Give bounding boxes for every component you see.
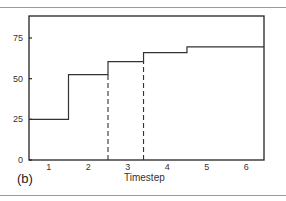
x-axis: 123456: [46, 162, 248, 172]
x-tick-label: 1: [46, 162, 51, 172]
x-tick-label: 5: [204, 162, 209, 172]
y-tick-label: 25: [13, 114, 23, 124]
y-tick-label: 75: [13, 33, 23, 43]
step-series-line: [29, 47, 264, 119]
plot-frame: [29, 16, 264, 160]
step-chart: 0255075 123456 Timestep (b): [0, 0, 286, 201]
dashed-markers: [108, 62, 144, 160]
y-tick-label: 50: [13, 74, 23, 84]
y-tick-label: 0: [18, 155, 23, 165]
x-tick-label: 6: [244, 162, 249, 172]
x-axis-title: Timestep: [124, 172, 165, 183]
panel-label: (b): [17, 171, 33, 186]
x-tick-label: 3: [125, 162, 130, 172]
x-tick-label: 4: [165, 162, 170, 172]
x-tick-label: 2: [86, 162, 91, 172]
